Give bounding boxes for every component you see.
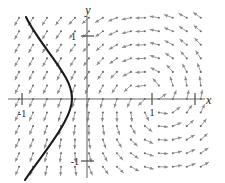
field-arrow-head	[164, 14, 168, 17]
field-arrow-tail-dot	[74, 57, 76, 59]
field-arrow-head	[186, 90, 189, 94]
field-arrow-tail-dot	[158, 71, 160, 73]
field-arrow-tail-dot	[88, 30, 90, 32]
field-arrow-head	[184, 77, 187, 81]
field-arrow-tail-dot	[74, 84, 76, 86]
field-arrow-tail-dot	[60, 112, 62, 114]
field-arrow-tail-dot	[32, 57, 34, 59]
field-arrow-tail-dot	[200, 30, 202, 32]
y-tick-label-neg-one: -1	[71, 156, 79, 167]
field-arrow-head	[150, 55, 154, 58]
field-arrow-tail-dot	[88, 125, 90, 127]
field-arrow-tail-dot	[144, 166, 146, 168]
field-arrow-tail-dot	[158, 44, 160, 46]
field-arrow-head	[44, 172, 47, 176]
field-arrow-head	[150, 15, 154, 18]
field-arrow-tail-dot	[32, 152, 34, 154]
field-arrow-tail-dot	[172, 44, 174, 46]
field-arrow-tail-dot	[46, 17, 48, 19]
field-arrow-head	[200, 90, 203, 94]
field-arrow-tail-dot	[32, 44, 34, 46]
x-tick-label-neg-one: -1	[18, 108, 26, 119]
field-arrow-head	[56, 35, 59, 39]
field-arrow-tail-dot	[200, 84, 202, 86]
field-arrow-tail-dot	[46, 84, 48, 86]
axes-group	[8, 16, 205, 178]
field-arrow-head	[150, 29, 154, 32]
field-arrow-tail-dot	[144, 112, 146, 114]
field-arrow-tail-dot	[46, 30, 48, 32]
field-arrow-head	[58, 145, 61, 149]
field-arrow-tail-dot	[74, 125, 76, 127]
field-arrow-tail-dot	[130, 30, 132, 32]
field-arrow-head	[136, 57, 139, 60]
field-arrow-head	[103, 144, 106, 148]
field-arrow-tail-dot	[88, 71, 90, 73]
field-arrow-tail-dot	[74, 152, 76, 154]
field-arrow-tail-dot	[116, 166, 118, 168]
field-arrow-tail-dot	[32, 17, 34, 19]
field-arrow-tail-dot	[18, 57, 20, 59]
field-arrow-head	[59, 172, 62, 175]
field-arrow-tail-dot	[186, 17, 188, 19]
field-arrow-tail-dot	[130, 112, 132, 114]
field-arrow-tail-dot	[116, 17, 118, 19]
field-arrow-head	[105, 170, 108, 174]
field-arrow-tail-dot	[46, 71, 48, 73]
field-arrow-tail-dot	[200, 112, 202, 114]
field-arrow-tail-dot	[46, 112, 48, 114]
field-arrow-tail-dot	[186, 152, 188, 154]
field-arrow-tail-dot	[186, 166, 188, 168]
field-arrow-tail-dot	[116, 84, 118, 86]
field-arrow-tail-dot	[88, 84, 90, 86]
field-arrow-tail-dot	[88, 57, 90, 59]
field-arrow-tail-dot	[116, 112, 118, 114]
field-arrow-tail-dot	[172, 84, 174, 86]
field-arrow-head	[193, 13, 197, 16]
field-arrow-tail-dot	[158, 152, 160, 154]
field-arrow-head	[101, 118, 104, 122]
field-arrow-head	[87, 132, 90, 135]
field-arrow-tail-dot	[60, 84, 62, 86]
field-arrow-tail-dot	[46, 152, 48, 154]
field-arrow-tail-dot	[116, 152, 118, 154]
field-arrow-head	[164, 165, 167, 168]
field-arrow-tail-dot	[144, 139, 146, 141]
field-arrow-tail-dot	[144, 84, 146, 86]
field-arrow-tail-dot	[46, 139, 48, 141]
field-arrow-tail-dot	[32, 139, 34, 141]
x-tick-label-pos-one: 1	[150, 107, 155, 118]
field-arrow-head	[122, 17, 126, 20]
field-arrow-tail-dot	[74, 44, 76, 46]
field-arrow-head	[150, 42, 154, 45]
field-arrow-head	[136, 71, 139, 74]
field-arrow-tail-dot	[18, 152, 20, 154]
field-arrow-tail-dot	[200, 17, 202, 19]
field-arrow-head	[44, 131, 47, 135]
field-arrow-tail-dot	[130, 139, 132, 141]
field-arrow-tail-dot	[200, 125, 202, 127]
field-arrow-tail-dot	[102, 139, 104, 141]
field-arrow-head	[136, 43, 139, 46]
field-arrow-tail-dot	[60, 57, 62, 59]
x-axis-label: x	[205, 93, 212, 107]
field-arrow-tail-dot	[130, 84, 132, 86]
field-arrow-tail-dot	[172, 57, 174, 59]
field-arrow-head	[72, 118, 75, 122]
field-arrow-tail-dot	[102, 84, 104, 86]
field-arrow-tail-dot	[172, 166, 174, 168]
field-arrow-tail-dot	[46, 57, 48, 59]
field-arrow-tail-dot	[144, 30, 146, 32]
field-arrow-tail-dot	[60, 166, 62, 168]
field-arrow-tail-dot	[32, 71, 34, 73]
field-arrow-tail-dot	[46, 125, 48, 127]
field-arrow-head	[96, 33, 100, 36]
field-arrow-tail-dot	[60, 17, 62, 19]
field-arrow-tail-dot	[102, 71, 104, 73]
field-arrow-tail-dot	[158, 139, 160, 141]
field-arrow-tail-dot	[60, 44, 62, 46]
field-arrow-tail-dot	[88, 112, 90, 114]
field-arrow-tail-dot	[144, 152, 146, 154]
field-arrow-tail-dot	[74, 71, 76, 73]
field-arrow-tail-dot	[102, 57, 104, 59]
